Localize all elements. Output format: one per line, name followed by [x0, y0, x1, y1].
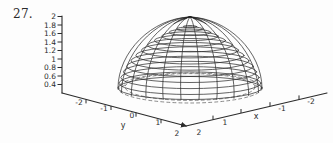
y-tick-label: 0 — [130, 111, 135, 120]
x-tick-label: -1 — [278, 104, 286, 113]
hidden-edge-lines — [118, 73, 262, 103]
z-tick-label: 0.4 — [44, 80, 56, 89]
problem-number-label: 27. — [13, 7, 33, 21]
x-axis-label: x — [254, 112, 259, 121]
x-tick-label: -2 — [307, 97, 315, 106]
y-tick-label: -1 — [100, 104, 108, 113]
figure-panel: 27. — [0, 0, 333, 143]
x-tick-label: 1 — [223, 118, 228, 127]
y-tick-label: -2 — [75, 98, 83, 107]
hemisphere-surface-mesh — [118, 17, 262, 104]
x-axis-line — [186, 93, 327, 126]
y-axis-label: y — [121, 121, 126, 130]
z-axis-ticks — [58, 17, 63, 85]
y-tick-label: 1 — [156, 118, 161, 127]
z-axis-tick-labels: 2 1.8 1.6 1.4 1.2 1 0.8 0.6 0.4 — [44, 12, 56, 89]
y-tick-label: 2 — [175, 129, 180, 138]
plot-3d-hemisphere: 2 1.8 1.6 1.4 1.2 1 0.8 0.6 0.4 -2 -1 0 … — [0, 0, 333, 143]
meridian-lines — [118, 17, 262, 100]
parallel-rings — [118, 26, 262, 100]
x-tick-label: 2 — [197, 128, 202, 137]
y-axis-tick-labels: -2 -1 0 1 2 — [75, 98, 179, 138]
